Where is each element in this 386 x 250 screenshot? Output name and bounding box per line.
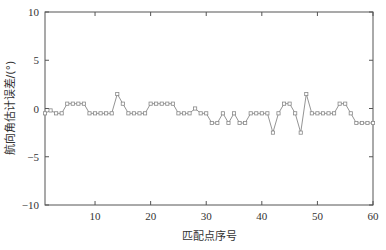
x-tick-label: 40 xyxy=(256,210,268,222)
data-point-marker xyxy=(143,112,146,115)
y-tick-label: 0 xyxy=(34,103,40,115)
data-point-marker xyxy=(266,112,269,115)
data-point-marker xyxy=(366,121,369,124)
data-point-marker xyxy=(205,112,208,115)
data-point-marker xyxy=(55,112,58,115)
data-point-marker xyxy=(221,112,224,115)
data-point-marker xyxy=(338,102,341,105)
data-point-marker xyxy=(171,102,174,105)
data-point-marker xyxy=(77,102,80,105)
data-point-marker xyxy=(60,112,63,115)
data-point-marker xyxy=(166,102,169,105)
data-point-marker xyxy=(260,112,263,115)
data-point-marker xyxy=(138,112,141,115)
data-point-marker xyxy=(132,112,135,115)
data-point-marker xyxy=(110,112,113,115)
y-tick-label: 10 xyxy=(28,6,40,18)
data-point-marker xyxy=(43,112,46,115)
x-tick-label: 50 xyxy=(312,210,324,222)
data-point-marker xyxy=(288,102,291,105)
data-point-marker xyxy=(316,112,319,115)
data-point-marker xyxy=(66,102,69,105)
data-point-marker xyxy=(327,112,330,115)
data-point-marker xyxy=(93,112,96,115)
data-point-marker xyxy=(121,102,124,105)
data-point-marker xyxy=(88,112,91,115)
data-point-marker xyxy=(127,112,130,115)
x-tick-label: 60 xyxy=(368,210,380,222)
x-tick-label: 30 xyxy=(201,210,213,222)
y-axis: −10−50510 xyxy=(22,6,373,211)
data-point-marker xyxy=(305,92,308,95)
data-point-marker xyxy=(360,121,363,124)
data-point-marker xyxy=(344,102,347,105)
data-point-marker xyxy=(216,121,219,124)
y-tick-label: −10 xyxy=(22,199,40,211)
data-point-marker xyxy=(194,107,197,110)
data-point-marker xyxy=(310,112,313,115)
data-point-marker xyxy=(49,109,52,112)
data-point-marker xyxy=(249,112,252,115)
y-axis-label: 航向角估计误差/(°) xyxy=(3,61,17,156)
data-point-marker xyxy=(321,112,324,115)
data-point-marker xyxy=(232,112,235,115)
data-point-marker xyxy=(155,102,158,105)
data-series xyxy=(43,92,374,134)
data-point-marker xyxy=(355,121,358,124)
data-point-marker xyxy=(182,112,185,115)
y-tick-label: 5 xyxy=(34,54,40,66)
data-point-marker xyxy=(160,102,163,105)
data-point-marker xyxy=(277,112,280,115)
line-chart: 102030405060 −10−50510 匹配点序号 航向角估计误差/(°) xyxy=(0,0,386,250)
y-tick-label: −5 xyxy=(27,151,39,163)
x-axis: 102030405060 xyxy=(90,12,379,222)
plot-area xyxy=(45,12,373,205)
data-point-marker xyxy=(294,112,297,115)
x-axis-label: 匹配点序号 xyxy=(182,229,237,243)
data-point-marker xyxy=(210,121,213,124)
data-point-marker xyxy=(244,121,247,124)
data-point-marker xyxy=(71,102,74,105)
data-point-marker xyxy=(188,112,191,115)
data-point-marker xyxy=(299,131,302,134)
data-point-marker xyxy=(99,112,102,115)
data-point-marker xyxy=(238,121,241,124)
data-point-marker xyxy=(371,121,374,124)
data-point-marker xyxy=(271,131,274,134)
x-tick-label: 10 xyxy=(90,210,102,222)
data-point-marker xyxy=(332,112,335,115)
data-point-marker xyxy=(199,112,202,115)
axes-frame xyxy=(45,12,373,205)
data-point-marker xyxy=(227,121,230,124)
data-point-marker xyxy=(177,112,180,115)
data-point-marker xyxy=(82,102,85,105)
data-point-marker xyxy=(105,112,108,115)
data-point-marker xyxy=(255,112,258,115)
x-tick-label: 20 xyxy=(145,210,157,222)
data-point-marker xyxy=(349,112,352,115)
data-point-marker xyxy=(116,92,119,95)
data-point-marker xyxy=(282,102,285,105)
data-point-marker xyxy=(149,102,152,105)
